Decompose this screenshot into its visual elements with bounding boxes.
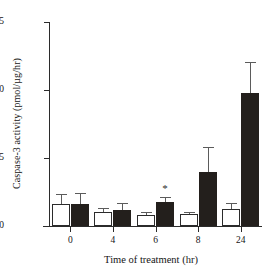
- x-tick-label: 24: [226, 235, 256, 245]
- y-tick: [44, 158, 49, 159]
- y-tick-label: 0: [0, 221, 4, 231]
- x-tick-label: 0: [55, 235, 85, 245]
- bar-treated-4hr: [113, 210, 131, 226]
- y-axis-line: [49, 22, 50, 227]
- x-tick: [156, 227, 157, 232]
- error-bar-cap: [56, 194, 67, 195]
- bar-treated-8hr: [199, 172, 217, 226]
- y-tick-label: 15: [0, 17, 4, 27]
- significance-asterisk: *: [158, 183, 172, 194]
- error-bar-cap: [226, 203, 237, 204]
- error-bar-control-4hr: [98, 208, 109, 211]
- bar-treated-0hr: [71, 204, 89, 226]
- bar-treated-6hr: [156, 202, 174, 226]
- bar-treated-24hr: [241, 93, 259, 226]
- error-bar-treated-24hr: [245, 62, 256, 93]
- bar-control-8hr: [180, 214, 198, 226]
- x-tick-label: 8: [183, 235, 213, 245]
- error-bar-cap: [117, 203, 128, 204]
- error-bar-stem: [250, 62, 251, 93]
- error-bar-treated-0hr: [75, 193, 86, 204]
- bar-control-6hr: [137, 215, 155, 226]
- y-tick: [44, 90, 49, 91]
- bar-control-24hr: [222, 209, 240, 226]
- bar-control-4hr: [94, 212, 112, 226]
- bar-control-0hr: [52, 204, 70, 226]
- error-bar-treated-4hr: [117, 203, 128, 210]
- error-bar-control-24hr: [226, 203, 237, 209]
- error-bar-control-8hr: [184, 212, 195, 214]
- x-tick: [113, 227, 114, 232]
- y-axis-label: Caspase-3 activity (pmol/µg/hr): [11, 24, 22, 224]
- x-tick-label: 6: [141, 235, 171, 245]
- y-tick-label: 5: [0, 153, 4, 163]
- error-bar-cap: [75, 193, 86, 194]
- error-bar-cap: [98, 208, 109, 209]
- x-axis-label: Time of treatment (hr): [40, 254, 262, 265]
- error-bar-cap: [141, 212, 152, 213]
- error-bar-cap: [184, 212, 195, 213]
- plot-area: 051015 046824 *: [49, 22, 262, 226]
- x-tick: [241, 227, 242, 232]
- error-bar-stem: [80, 193, 81, 204]
- error-bar-stem: [122, 203, 123, 210]
- error-bar-cap: [160, 197, 171, 198]
- y-tick: [44, 22, 49, 23]
- error-bar-control-0hr: [56, 194, 67, 204]
- y-tick: [44, 226, 49, 227]
- error-bar-control-6hr: [141, 212, 152, 215]
- error-bar-stem: [61, 194, 62, 204]
- x-axis-line: [43, 226, 262, 227]
- error-bar-cap: [203, 147, 214, 148]
- error-bar-treated-6hr: [160, 197, 171, 202]
- x-tick: [198, 227, 199, 232]
- error-bar-treated-8hr: [203, 147, 214, 171]
- x-tick: [70, 227, 71, 232]
- caspase3-bar-chart: Caspase-3 activity (pmol/µg/hr) 051015 0…: [0, 0, 278, 278]
- y-tick-label: 10: [0, 85, 4, 95]
- error-bar-stem: [208, 147, 209, 171]
- x-tick-label: 4: [98, 235, 128, 245]
- error-bar-cap: [245, 62, 256, 63]
